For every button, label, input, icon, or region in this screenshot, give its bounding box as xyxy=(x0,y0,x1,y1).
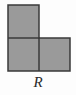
square-bottom-right xyxy=(39,38,70,71)
figure-label-r: R xyxy=(0,74,76,90)
square-top-left xyxy=(8,5,39,38)
square-bottom-left xyxy=(8,38,39,71)
figure-container: R xyxy=(0,0,76,95)
